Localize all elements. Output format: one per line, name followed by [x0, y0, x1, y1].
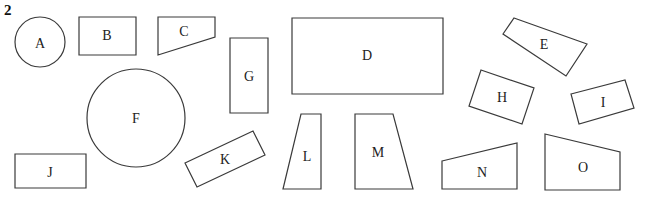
- shape-c: C: [158, 17, 215, 55]
- shape-label: B: [102, 28, 111, 43]
- shape-b: B: [79, 17, 136, 55]
- shape-label: A: [35, 36, 46, 51]
- shape-label: H: [497, 90, 507, 105]
- shape-label: N: [477, 165, 487, 180]
- shape-label: C: [179, 24, 188, 39]
- shape-label: D: [362, 48, 372, 63]
- shape-h: H: [469, 70, 534, 124]
- shape-label: F: [132, 111, 140, 126]
- shape-g: G: [230, 38, 268, 113]
- shape-d: D: [292, 18, 443, 94]
- shape-label: J: [47, 165, 53, 180]
- shape-l: L: [283, 114, 321, 189]
- shape-j: J: [15, 154, 86, 188]
- shape-label: G: [244, 69, 254, 84]
- shape-n: N: [442, 143, 517, 189]
- shape-m: M: [355, 114, 413, 189]
- shape-label: K: [220, 152, 230, 167]
- shape-label: M: [372, 145, 385, 160]
- shape-label: L: [303, 149, 312, 164]
- shape-label: O: [578, 160, 588, 175]
- shape-o: O: [545, 134, 620, 190]
- shape-label: I: [601, 95, 606, 110]
- shape-k: K: [185, 131, 265, 187]
- shapes-diagram: 2 ABCDEFGHIJKLMNO: [0, 0, 646, 206]
- shape-a: A: [15, 17, 65, 67]
- figure-number: 2: [4, 2, 12, 18]
- shape-i: I: [571, 80, 634, 124]
- shape-layer: ABCDEFGHIJKLMNO: [15, 17, 634, 190]
- shape-f: F: [87, 69, 185, 167]
- shape-e: E: [503, 18, 587, 76]
- shape-label: E: [540, 37, 549, 52]
